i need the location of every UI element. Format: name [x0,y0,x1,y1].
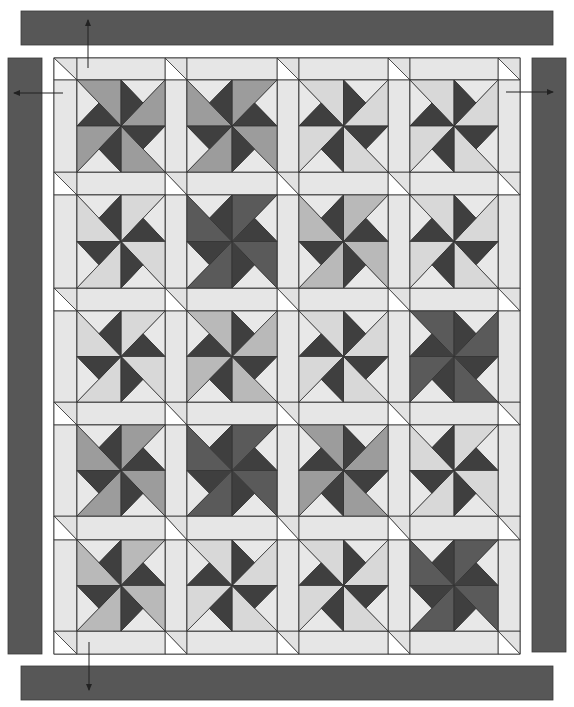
pinwheel-block [299,540,388,631]
pinwheel-block [77,80,165,172]
sashing-strip-vertical [388,540,410,631]
sashing-strip-horizontal [187,402,277,425]
cornerstone [277,172,299,195]
cornerstone [165,631,187,654]
right-border [532,58,566,652]
sashing-strip-horizontal [410,631,498,654]
cornerstone [498,631,520,654]
cornerstone [165,402,187,425]
sashing-strip-horizontal [410,58,498,80]
cornerstone [54,516,77,540]
sashing-strip-vertical [498,540,520,631]
cornerstone [277,288,299,311]
quilt-diagram [0,0,574,707]
pinwheel-block [187,425,277,516]
cornerstone [388,172,410,195]
pinwheel-block [187,80,277,172]
sashing-strip-vertical [388,311,410,402]
sashing-strip-horizontal [77,288,165,311]
pinwheel-block [299,425,388,516]
sashing-strip-vertical [277,80,299,172]
sashing-strip-vertical [498,311,520,402]
sashing-strip-vertical [165,425,187,516]
sashing-strip-horizontal [77,172,165,195]
cornerstone [165,58,187,80]
sashing-strip-horizontal [187,631,277,654]
sashing-strip-vertical [165,195,187,288]
cornerstone [498,288,520,311]
sashing-strip-horizontal [299,58,388,80]
sashing-strip-vertical [165,311,187,402]
sashing-strip-horizontal [187,172,277,195]
sashing-strip-horizontal [410,402,498,425]
pinwheel-block [77,425,165,516]
sashing-strip-horizontal [77,58,165,80]
sashing-strip-vertical [277,425,299,516]
sashing-strip-horizontal [299,631,388,654]
sashing-strip-horizontal [410,288,498,311]
cornerstone [498,58,520,80]
pinwheel-block [410,425,498,516]
pinwheel-block [77,311,165,402]
pinwheel-block [410,80,498,172]
sashing-strip-vertical [388,425,410,516]
cornerstone [277,402,299,425]
sashing-strip-horizontal [410,516,498,540]
cornerstone [165,516,187,540]
pinwheel-block [187,311,277,402]
cornerstone [54,402,77,425]
pinwheel-block [187,195,277,288]
cornerstone [498,172,520,195]
pinwheel-block [410,540,498,631]
cornerstone [498,402,520,425]
sashing-strip-horizontal [299,516,388,540]
pinwheel-block [410,195,498,288]
sashing-strip-vertical [54,195,77,288]
pinwheel-block [187,540,277,631]
pinwheel-block [77,195,165,288]
sashing-strip-vertical [388,80,410,172]
sashing-strip-vertical [54,80,77,172]
bottom-border [21,666,553,700]
cornerstone [54,58,77,80]
cornerstone [498,516,520,540]
pinwheel-block [299,195,388,288]
cornerstone [54,172,77,195]
sashing-strip-horizontal [77,631,165,654]
pinwheel-block [299,80,388,172]
cornerstone [388,288,410,311]
sashing-strip-horizontal [187,516,277,540]
cornerstone [165,172,187,195]
cornerstone [54,631,77,654]
sashing-strip-horizontal [299,288,388,311]
cornerstone [165,288,187,311]
sashing-strip-vertical [54,425,77,516]
cornerstone [388,58,410,80]
sashing-strip-vertical [498,195,520,288]
sashing-strip-vertical [165,80,187,172]
pinwheel-block [77,540,165,631]
sashing-strip-horizontal [77,402,165,425]
cornerstone [388,516,410,540]
pinwheel-block [299,311,388,402]
sashing-strip-horizontal [299,172,388,195]
cornerstone [388,631,410,654]
sashing-strip-vertical [165,540,187,631]
sashing-strip-horizontal [410,172,498,195]
pinwheel-block [410,311,498,402]
sashing-strip-vertical [277,195,299,288]
sashing-strip-vertical [277,311,299,402]
sashing-strip-vertical [498,80,520,172]
sashing-strip-vertical [388,195,410,288]
top-border [21,11,553,45]
quilt-center [54,58,520,654]
left-border [8,58,42,654]
cornerstone [277,58,299,80]
sashing-strip-vertical [54,540,77,631]
sashing-strip-horizontal [299,402,388,425]
cornerstone [277,631,299,654]
sashing-strip-vertical [277,540,299,631]
sashing-strip-horizontal [187,288,277,311]
sashing-strip-vertical [498,425,520,516]
sashing-strip-horizontal [77,516,165,540]
